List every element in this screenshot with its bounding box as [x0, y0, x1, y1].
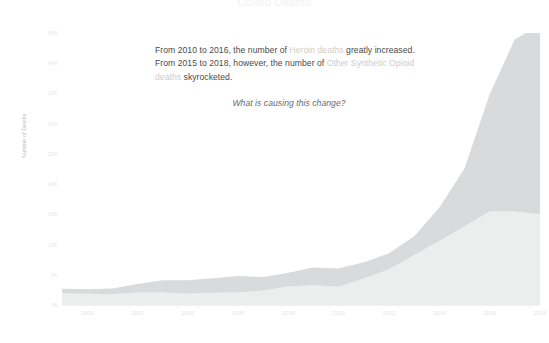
y-axis-tick-label: 45K	[30, 30, 58, 36]
x-axis-line	[62, 305, 540, 306]
annotation-text-1: From 2010 to 2016, the number of	[155, 45, 289, 55]
y-axis-tick-label: 25K	[30, 151, 58, 157]
y-axis-title: Number of Deaths	[21, 88, 27, 158]
x-axis-tick-label: 2004	[168, 310, 208, 316]
chart-title: Opioid Deaths	[0, 0, 549, 7]
y-axis-tick-label: 20K	[30, 181, 58, 187]
annotation-textbox: From 2010 to 2016, the number of Heroin …	[155, 44, 423, 110]
y-axis-tick-label: 10K	[30, 242, 58, 248]
y-axis-tick-label: 30K	[30, 121, 58, 127]
annotation-text-3: skyrocketed.	[181, 72, 232, 82]
x-axis-tick-label: 2014	[419, 310, 459, 316]
x-axis-tick-label: 2008	[268, 310, 308, 316]
x-axis-tick-label: 2016	[470, 310, 510, 316]
y-axis-tick-label: 35K	[30, 90, 58, 96]
x-axis-tick-label: 2006	[218, 310, 258, 316]
y-axis-tick-label: 15K	[30, 211, 58, 217]
x-axis-tick-label: 2010	[319, 310, 359, 316]
annotation-question: What is causing this change?	[155, 97, 423, 110]
y-axis-tick-labels: 0K5K10K15K20K25K30K35K40K45K	[30, 33, 58, 305]
annotation-highlight-heroin: Heroin deaths	[289, 45, 343, 55]
y-axis-tick-label: 0K	[30, 302, 58, 308]
x-axis-tick-labels: 2000200220042006200820102012201420162018	[62, 310, 542, 322]
annotation-paragraph: From 2010 to 2016, the number of Heroin …	[155, 44, 423, 84]
x-axis-tick-label: 2012	[369, 310, 409, 316]
x-axis-tick-label: 2000	[67, 310, 107, 316]
visualization-canvas: Opioid Deaths Number of Deaths 0K5K10K15…	[0, 0, 549, 343]
y-axis-tick-label: 40K	[30, 60, 58, 66]
x-axis-tick-label: 2002	[117, 310, 157, 316]
x-axis-tick-label: 2018	[520, 310, 549, 316]
y-axis-tick-label: 5K	[30, 272, 58, 278]
